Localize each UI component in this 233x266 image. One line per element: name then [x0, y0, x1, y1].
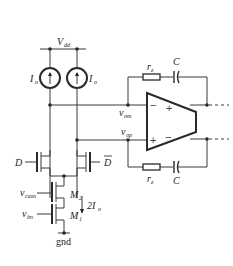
svg-text:o: o — [35, 79, 38, 85]
svg-text:op: op — [126, 132, 132, 138]
svg-text:M: M — [69, 210, 79, 221]
svg-text:z: z — [150, 179, 154, 185]
svg-text:1: 1 — [79, 216, 82, 222]
svg-text:+: + — [166, 102, 172, 114]
svg-text:o: o — [94, 79, 97, 85]
svg-text:+: + — [150, 134, 156, 146]
svg-text:−: − — [150, 99, 156, 111]
resistor-icon — [143, 164, 160, 170]
switch-right-label: D — [103, 157, 112, 168]
current-source-right-label: I — [88, 73, 93, 84]
feedback-bottom: r z C — [128, 139, 207, 186]
arrow-down-icon — [80, 209, 84, 214]
gnd-label: gnd — [56, 236, 71, 247]
arrow-up-icon — [48, 72, 52, 76]
svg-text:2I: 2I — [87, 200, 96, 211]
vdd-rail: V dd — [40, 36, 86, 51]
node-vom-wire: v om — [48, 88, 147, 198]
switch-left-label: D — [14, 157, 23, 168]
ground: gnd — [56, 231, 71, 247]
svg-text:C: C — [173, 56, 180, 67]
switch-pair: D D — [14, 150, 112, 178]
svg-text:C: C — [173, 175, 180, 186]
vdd-sub: dd — [64, 42, 71, 48]
opamp: − + + − — [147, 93, 229, 150]
tail-current: 2I o — [80, 196, 101, 214]
current-source-left: I o — [29, 49, 60, 88]
circuit-diagram: V dd I o I o v om v op − — [0, 0, 233, 266]
resistor-icon — [143, 74, 160, 80]
arrow-up-icon — [75, 72, 79, 76]
svg-text:−: − — [165, 131, 171, 143]
svg-text:om: om — [124, 113, 132, 119]
svg-text:o: o — [98, 206, 101, 212]
feedback-top: r z C — [128, 56, 207, 105]
svg-text:bn: bn — [27, 214, 33, 220]
transistor-m1: v bn M 1 — [22, 204, 82, 233]
current-source-right: I o — [67, 49, 97, 88]
svg-text:z: z — [150, 67, 154, 73]
svg-text:casn: casn — [25, 193, 36, 199]
current-source-left-label: I — [29, 73, 34, 84]
transistor-m2: v casn M 2 — [20, 176, 82, 208]
svg-text:M: M — [69, 189, 79, 200]
